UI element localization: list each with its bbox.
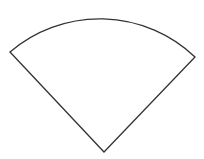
sector-diagram	[0, 0, 204, 159]
sector-shape	[10, 19, 195, 152]
